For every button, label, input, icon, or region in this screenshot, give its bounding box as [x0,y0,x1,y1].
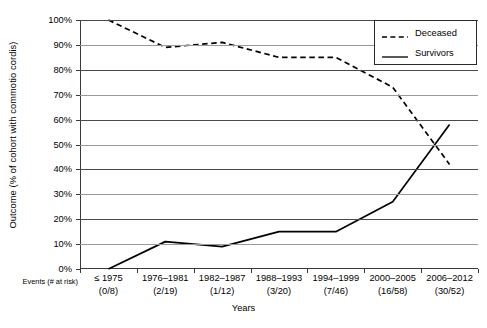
x-axis-tick-mark [478,269,479,273]
x-axis-category-range: ≤ 1975 [94,272,122,285]
y-axis-tick-label: 0% [26,264,72,274]
x-axis-category-label: 1982–1987(1/12) [199,272,246,297]
x-axis-category-at-risk: (30/52) [426,285,473,298]
gridline [80,219,478,220]
gridline [80,145,478,146]
y-axis-tick-label: 100% [26,15,72,25]
x-axis-category-label: ≤ 1975(0/8) [94,272,122,297]
series-line-survivors [108,125,449,269]
y-axis-tick-label: 10% [26,239,72,249]
x-axis-category-label: 1988–1993(3/20) [256,272,303,297]
gridline [80,70,478,71]
x-axis-category-label: 1994–1999(7/46) [313,272,360,297]
chart-legend: Deceased Survivors [374,20,477,65]
y-axis-tick-mark [76,20,80,21]
y-axis-title: Outcome (% of cohort with commotio cordi… [2,0,24,270]
x-axis-category-range: 1976–1981 [142,272,189,285]
x-axis-category-at-risk: (1/12) [199,285,246,298]
x-axis-category-labels: ≤ 1975(0/8)1976–1981(2/19)1982–1987(1/12… [80,272,478,306]
events-at-risk-label: Events (# at risk) [4,277,78,286]
x-axis-category-at-risk: (7/46) [313,285,360,298]
y-axis-tick-mark [76,194,80,195]
y-axis-tick-label: 70% [26,90,72,100]
y-axis-tick-label: 80% [26,65,72,75]
y-axis-tick-mark [76,244,80,245]
y-axis-tick-label: 40% [26,164,72,174]
x-axis-category-at-risk: (16/58) [369,285,416,298]
y-axis-tick-mark [76,145,80,146]
y-axis-tick-label: 20% [26,214,72,224]
y-axis-tick-label: 50% [26,140,72,150]
x-axis-title: Years [0,303,487,313]
x-axis-category-range: 1988–1993 [256,272,303,285]
legend-label-deceased: Deceased [415,28,457,38]
y-axis-tick-mark [76,120,80,121]
legend-label-survivors: Survivors [415,48,454,58]
y-axis-title-text: Outcome (% of cohort with commotio cordi… [8,41,18,228]
legend-swatch-solid-icon [382,48,408,58]
x-axis-category-range: 1982–1987 [199,272,246,285]
x-axis-category-label: 1976–1981(2/19) [142,272,189,297]
y-axis-tick-label: 90% [26,40,72,50]
legend-item-deceased: Deceased [375,22,476,43]
y-axis-tick-mark [76,219,80,220]
y-axis-tick-mark [76,95,80,96]
x-axis-category-range: 2006–2012 [426,272,473,285]
legend-swatch-dashed-icon [382,28,408,38]
gridline [80,120,478,121]
gridline [80,244,478,245]
x-axis-category-label: 2000–2005(16/58) [369,272,416,297]
y-axis-tick-mark [76,70,80,71]
x-axis-category-at-risk: (0/8) [94,285,122,298]
legend-item-survivors: Survivors [375,42,476,63]
commotio-cordis-outcome-chart: Outcome (% of cohort with commotio cordi… [0,0,487,328]
y-axis-tick-mark [76,169,80,170]
gridline [80,169,478,170]
y-axis-tick-label: 30% [26,189,72,199]
x-axis-category-label: 2006–2012(30/52) [426,272,473,297]
x-axis-category-at-risk: (2/19) [142,285,189,298]
y-axis-tick-mark [76,45,80,46]
x-axis-category-at-risk: (3/20) [256,285,303,298]
x-axis-category-range: 2000–2005 [369,272,416,285]
y-axis-tick-label: 60% [26,115,72,125]
gridline [80,194,478,195]
gridline [80,95,478,96]
x-axis-category-range: 1994–1999 [313,272,360,285]
